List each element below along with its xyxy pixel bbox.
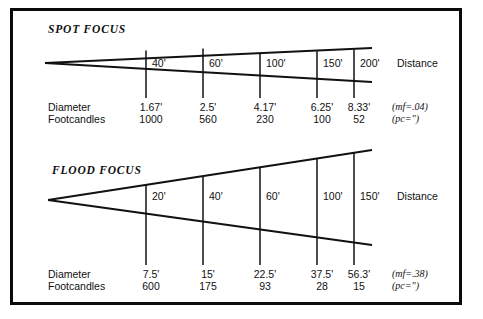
spot-diameter-row-label: Diameter — [48, 101, 91, 113]
spot-footcandles-value-3: 230 — [256, 113, 274, 125]
flood-footcandles-value-4: 28 — [316, 280, 328, 292]
flood-distance-label-4: 100' — [323, 190, 343, 202]
spot-diameter-value-3: 4.17' — [254, 101, 276, 113]
spot-footcandles-value-4: 100 — [313, 113, 331, 125]
flood-distance-label-3: 60' — [266, 190, 280, 202]
flood-footcandles-value-5: 15 — [353, 280, 365, 292]
flood-footcandles-row-label: Footcandles — [48, 280, 105, 292]
flood-cone-lower-edge — [48, 200, 372, 245]
flood-distance-label-2: 40' — [209, 190, 223, 202]
beam-spread-figure: SPOT FOCUS 40' 60' 100' 150' 200' Distan… — [0, 0, 483, 319]
flood-diameter-row-label: Diameter — [48, 268, 91, 280]
spot-distance-label-5: 200' — [360, 57, 380, 69]
flood-footcandles-value-3: 93 — [259, 280, 271, 292]
flood-footcandles-value-1: 600 — [142, 280, 160, 292]
flood-focus-title: FLOOD FOCUS — [52, 164, 142, 176]
spot-diameter-value-1: 1.67' — [140, 101, 162, 113]
spot-distance-label-2: 60' — [209, 57, 223, 69]
spot-diameter-value-2: 2.5' — [200, 101, 217, 113]
flood-distance-axis-label: Distance — [397, 190, 438, 202]
spot-focus-title: SPOT FOCUS — [48, 23, 126, 35]
spot-footcandles-value-2: 560 — [199, 113, 217, 125]
flood-diameter-value-5: 56.3' — [348, 268, 370, 280]
spot-distance-axis-label: Distance — [397, 57, 438, 69]
spot-distance-label-1: 40' — [152, 57, 166, 69]
flood-diameter-value-1: 7.5' — [143, 268, 160, 280]
flood-distance-label-1: 20' — [152, 190, 166, 202]
spot-maintenance-factor-note: (mf=.04) — [392, 101, 428, 112]
spot-diameter-value-4: 6.25' — [311, 101, 333, 113]
flood-footcandles-value-2: 175 — [199, 280, 217, 292]
flood-diameter-value-4: 37.5' — [311, 268, 333, 280]
flood-maintenance-factor-note: (mf=.38) — [392, 268, 428, 279]
spot-footcandles-row-label: Footcandles — [48, 113, 105, 125]
spot-distance-label-3: 100' — [266, 57, 286, 69]
spot-diameter-value-5: 8.33' — [348, 101, 370, 113]
flood-diameter-value-2: 15' — [201, 268, 215, 280]
spot-distance-label-4: 150' — [323, 57, 343, 69]
spot-footcandles-value-5: 52 — [353, 113, 365, 125]
flood-distance-label-5: 150' — [360, 190, 380, 202]
spot-footcandles-value-1: 1000 — [139, 113, 162, 125]
flood-diameter-value-3: 22.5' — [254, 268, 276, 280]
spot-pc-note: (pc=") — [392, 113, 419, 124]
flood-pc-note: (pc=") — [392, 280, 419, 291]
